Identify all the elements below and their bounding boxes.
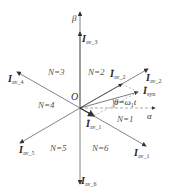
sector-label-2: N=2 [88,68,105,77]
label-av4: Iav_4 [8,74,24,85]
ref-vector-av1 [80,108,94,116]
beta-axis-label: β [72,14,76,23]
sector-label-1: N=1 [117,115,134,124]
sector-label-3: N=3 [48,68,65,77]
projection-line [122,84,138,92]
sector-label-6: N=6 [92,144,109,153]
vector-av5 [20,108,80,143]
label-ref-syn: I*syn [143,85,155,97]
label-av1: Iav_1 [134,148,150,159]
sector-label-4: N=4 [38,101,55,110]
alpha-axis-label: α [147,112,152,121]
label-ref-av2: I*av_2 [110,68,126,80]
label-av6: Iav_6 [81,176,97,187]
vector-diagram [0,0,173,194]
origin-label: O [71,92,78,102]
label-ref-av1: I*av_1 [86,118,102,130]
angle-label: θ=ω1t [114,98,136,108]
label-av2: Iav_2 [146,73,162,84]
label-av5: Iav_5 [19,145,35,156]
sector-label-5: N=5 [50,144,67,153]
label-av3: Iav_3 [82,34,98,45]
